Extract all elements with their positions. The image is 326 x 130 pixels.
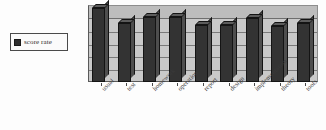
x-axis-labels: usualtesthomeworkoperationreportdesignim…: [88, 83, 318, 128]
bar[interactable]: [297, 23, 310, 82]
bar[interactable]: [143, 17, 156, 82]
bar-side-face: [156, 9, 160, 78]
bar-front-face: [297, 23, 310, 82]
bar[interactable]: [246, 18, 259, 82]
bar[interactable]: [118, 23, 131, 82]
bar-front-face: [92, 8, 105, 82]
bar-side-face: [310, 15, 314, 78]
plot-wrapper: [88, 5, 318, 82]
bar[interactable]: [92, 8, 105, 82]
bar-front-face: [220, 25, 233, 82]
bar-side-face: [259, 10, 263, 78]
bar-front-face: [246, 18, 259, 82]
chart-figure: score rate usualtesthomeworkoperationrep…: [0, 0, 326, 130]
bar-front-face: [143, 17, 156, 82]
bar-side-face: [105, 0, 109, 78]
bar[interactable]: [220, 25, 233, 82]
bar-side-face: [233, 17, 237, 78]
bar-front-face: [118, 23, 131, 82]
bar-side-face: [284, 18, 288, 78]
bar-group: [88, 5, 318, 82]
bar-side-face: [182, 9, 186, 78]
bar-side-face: [131, 15, 135, 78]
chart-legend: score rate: [10, 33, 68, 51]
bar-side-face: [208, 17, 212, 78]
legend-label-score-rate: score rate: [24, 38, 52, 46]
legend-swatch-score-rate: [14, 39, 21, 46]
